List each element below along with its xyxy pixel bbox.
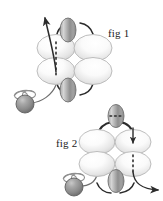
fig1-label: fig 1 <box>108 27 129 39</box>
fig1-group: fig 1 <box>14 18 129 113</box>
fig2-label: fig 2 <box>56 137 77 149</box>
fig2-axial-lobe-bottom <box>108 170 124 193</box>
fig1-axial-lobe-top <box>60 18 76 42</box>
fig2-lobe-top-left <box>79 130 115 155</box>
fig1-sphere <box>16 95 34 113</box>
figure-canvas: fig 1 <box>0 0 163 201</box>
fig1-tail-stroke <box>31 85 56 103</box>
fig2-lobe-bottom-left <box>79 152 115 177</box>
fig1-axial-lobe-bottom <box>60 78 76 102</box>
fig1-lobe-bottom-right <box>74 58 112 85</box>
figure-svg: fig 1 <box>0 0 163 201</box>
fig2-group: fig 2 <box>56 105 158 197</box>
fig2-sphere <box>65 178 83 196</box>
